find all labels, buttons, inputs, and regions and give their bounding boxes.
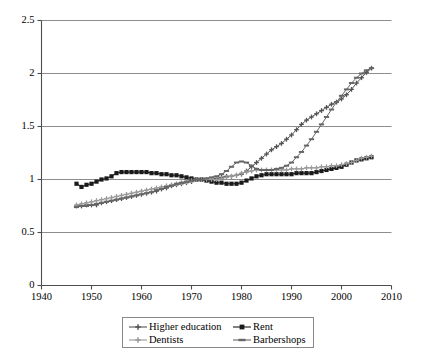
x-tick-1960: 1960 <box>120 291 164 302</box>
gridlines <box>42 21 392 233</box>
axes <box>38 21 392 290</box>
x-tick-1950: 1950 <box>70 291 114 302</box>
y-tick-0: 0 <box>0 279 35 290</box>
legend-marker-barbershops <box>233 335 250 344</box>
data-series-group <box>74 66 374 209</box>
legend-label-rent: Rent <box>253 321 273 332</box>
legend-label-dentists: Dentists <box>149 334 183 345</box>
y-tick-2: 2 <box>0 67 35 78</box>
legend-label-higher-education: Higher education <box>149 321 222 332</box>
legend-marker-dentists <box>129 335 146 344</box>
x-tick-1980: 1980 <box>220 291 264 302</box>
legend-item-rent: Rent <box>233 321 273 332</box>
x-tick-2010: 2010 <box>370 291 414 302</box>
series-higher-education <box>74 66 374 209</box>
x-tick-1970: 1970 <box>170 291 214 302</box>
y-tick-1: 1 <box>0 173 35 184</box>
legend-item-higher-education: Higher education <box>129 321 222 332</box>
legend: Higher education Rent Dentists Barbersho… <box>122 317 314 348</box>
y-tick-2.5: 2.5 <box>0 14 35 25</box>
legend-label-barbershops: Barbershops <box>253 334 306 345</box>
x-tick-2000: 2000 <box>320 291 364 302</box>
x-tick-1990: 1990 <box>270 291 314 302</box>
legend-item-dentists: Dentists <box>129 334 183 345</box>
y-tick-1.5: 1.5 <box>0 120 35 131</box>
plot-area <box>0 0 438 355</box>
series-barbershops <box>74 68 374 207</box>
legend-marker-rent <box>233 322 250 331</box>
legend-marker-higher-education <box>129 322 146 331</box>
y-tick-0.5: 0.5 <box>0 226 35 237</box>
legend-item-barbershops: Barbershops <box>233 334 306 345</box>
line-chart: 00.511.522.5 194019501960197019801990200… <box>0 0 438 355</box>
x-tick-1940: 1940 <box>20 291 64 302</box>
